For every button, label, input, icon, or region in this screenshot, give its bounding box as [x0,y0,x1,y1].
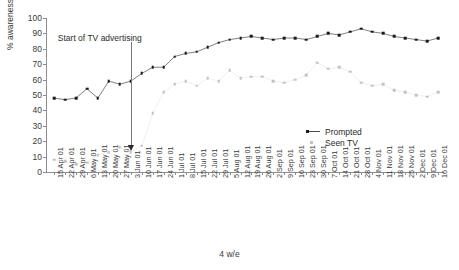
x-tick-mark [87,172,88,175]
y-axis-title: % awareness [5,0,15,50]
legend-item-seen-tv: Seen TV [305,137,362,148]
data-point [217,41,220,44]
data-point [64,160,67,163]
x-tick-mark [416,172,417,175]
data-point [360,27,363,30]
legend-marker-prompted-icon [305,128,321,136]
data-point [283,81,286,84]
data-point [53,97,56,100]
data-point [371,84,374,87]
data-point [404,91,407,94]
data-point [86,161,89,164]
data-point [97,97,100,100]
y-tick-label: 20 [33,137,42,146]
data-point [393,89,396,92]
data-point [338,66,341,69]
line-seen-tv [54,63,438,165]
y-tick-label: 60 [33,76,42,85]
data-point [151,112,154,115]
y-tick-label: 80 [33,45,42,54]
x-tick-mark [405,172,406,175]
data-point [97,154,100,157]
data-point [349,71,352,74]
data-point [250,75,253,78]
data-point [108,80,111,83]
data-point [86,88,89,91]
data-point [283,37,286,40]
data-point [382,32,385,35]
x-tick-mark [372,172,373,175]
legend-label-prompted: Prompted [325,127,362,137]
data-point [305,74,308,77]
data-point [140,145,143,148]
data-point [184,80,187,83]
data-point [316,61,319,64]
y-tick-label: 50 [33,91,42,100]
data-point [272,38,275,41]
data-point [261,37,264,40]
data-point [239,77,242,80]
data-point [64,98,67,101]
data-point [327,32,330,35]
data-point [119,146,122,149]
data-point [426,40,429,43]
data-point [206,46,209,49]
data-point [426,95,429,98]
annotation-arrow-icon [128,145,134,151]
data-point [415,94,418,97]
x-tick-mark [54,172,55,175]
legend-item-prompted: Prompted [305,126,362,137]
x-tick-mark [98,172,99,175]
annotation-line [131,42,132,145]
data-point [415,38,418,41]
data-point [195,84,198,87]
data-point [184,52,187,55]
data-point [75,163,78,166]
legend-label-seen-tv: Seen TV [325,138,358,148]
y-tick-label: 0 [37,168,42,177]
data-point [206,77,209,80]
data-point [195,51,198,54]
data-point [75,97,78,100]
y-tick-label: 10 [33,153,42,162]
data-point [140,72,143,75]
data-point [173,83,176,86]
data-point [250,35,253,38]
data-point [294,37,297,40]
data-point [119,83,122,86]
data-point [261,75,264,78]
y-tick-label: 40 [33,106,42,115]
data-point [437,91,440,94]
x-tick-mark [427,172,428,175]
x-tick-mark [438,172,439,175]
data-point [173,55,176,58]
data-point [316,35,319,38]
data-point [360,81,363,84]
data-point [305,38,308,41]
data-point [217,80,220,83]
data-point [162,66,165,69]
data-point [404,37,407,40]
y-tick-mark [43,172,46,173]
x-tick-mark [383,172,384,175]
legend: Prompted Seen TV [305,126,362,148]
data-point [162,91,165,94]
x-tick-mark [394,172,395,175]
data-point [437,37,440,40]
legend-marker-seen-tv-icon [305,139,321,147]
x-axis-title: 4 w/e [0,249,459,259]
data-point [272,80,275,83]
data-point [53,158,56,161]
y-tick-label: 30 [33,122,42,131]
y-tick-label: 90 [33,29,42,38]
data-point [108,151,111,154]
data-point [349,31,352,34]
data-point [228,69,231,72]
data-point [294,78,297,81]
x-tick-mark [65,172,66,175]
x-tick-mark [76,172,77,175]
data-point [338,34,341,37]
data-point [327,68,330,71]
data-point [382,83,385,86]
data-point [371,31,374,34]
